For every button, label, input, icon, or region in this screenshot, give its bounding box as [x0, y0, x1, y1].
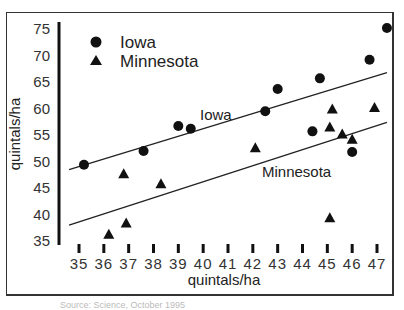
x-tick-mark	[177, 244, 180, 253]
iowa-point	[315, 73, 325, 83]
minnesota-point	[324, 122, 335, 132]
minnesota-point	[369, 102, 380, 112]
x-tick-label: 42	[243, 255, 262, 272]
legend-label-minnesota: Minnesota	[120, 52, 199, 71]
x-tick-label: 36	[94, 255, 113, 272]
x-tick-mark	[301, 244, 304, 253]
iowa-point	[186, 124, 196, 134]
trendlines	[69, 73, 387, 226]
y-tick-label: 55	[33, 126, 50, 143]
iowa-point	[260, 106, 270, 116]
x-tick-mark	[326, 244, 329, 253]
legend-triangle-icon	[90, 55, 102, 65]
x-tick-mark	[102, 244, 105, 253]
x-axis-title: quintals/ha	[188, 271, 261, 288]
y-tick-label: 45	[33, 179, 50, 196]
x-tick-mark	[127, 244, 130, 253]
iowa-point	[173, 121, 183, 131]
y-tick-label: 75	[33, 20, 50, 37]
iowa-point	[382, 23, 392, 33]
trendline-label-minnesota: Minnesota	[262, 163, 332, 180]
x-tick-label: 39	[169, 255, 188, 272]
x-tick-label: 40	[194, 255, 213, 272]
y-tick-label: 40	[33, 206, 50, 223]
y-axis-title: quintals/ha	[6, 97, 23, 170]
iowa-point	[273, 84, 283, 94]
y-axis: 354045505560657075	[33, 20, 59, 249]
legend: Iowa Minnesota	[90, 33, 199, 71]
minnesota-point	[103, 229, 114, 239]
x-tick-mark	[376, 244, 379, 253]
x-tick-mark	[251, 244, 254, 253]
minnesota-point	[327, 104, 338, 114]
minnesota-point	[155, 178, 166, 188]
y-tick-label: 50	[33, 153, 50, 170]
iowa-point	[347, 147, 357, 157]
y-tick-label: 60	[33, 100, 50, 117]
x-tick-label: 46	[343, 255, 362, 272]
x-tick-label: 38	[144, 255, 163, 272]
y-tick-label: 35	[33, 232, 50, 249]
x-tick-label: 37	[119, 255, 138, 272]
x-tick-mark	[276, 244, 279, 253]
x-tick-mark	[152, 244, 155, 253]
y-tick-label: 70	[33, 47, 50, 64]
x-tick-mark	[202, 244, 205, 253]
minnesota-point	[118, 168, 129, 178]
iowa-point	[365, 55, 375, 65]
x-tick-mark	[351, 244, 354, 253]
x-tick-label: 41	[219, 255, 238, 272]
minnesota-point	[337, 129, 348, 139]
minnesota-point	[250, 142, 261, 152]
y-tick-label: 65	[33, 73, 50, 90]
legend-circle-icon	[91, 37, 102, 48]
source-caption: Source: Science, October 1995	[60, 300, 185, 310]
trendline-label-iowa: Iowa	[200, 106, 232, 123]
iowa-point	[307, 126, 317, 136]
iowa-point	[139, 146, 149, 156]
minnesota-point	[324, 212, 335, 222]
x-axis: 35363738394041424344454647	[70, 244, 387, 272]
x-tick-label: 43	[268, 255, 287, 272]
x-tick-label: 35	[70, 255, 89, 272]
x-tick-mark	[227, 244, 230, 253]
x-tick-label: 47	[368, 255, 387, 272]
minnesota-point	[121, 218, 132, 228]
x-tick-label: 44	[293, 255, 312, 272]
x-tick-label: 45	[318, 255, 337, 272]
iowa-point	[79, 160, 89, 170]
legend-label-iowa: Iowa	[120, 33, 156, 52]
x-tick-mark	[78, 244, 81, 253]
